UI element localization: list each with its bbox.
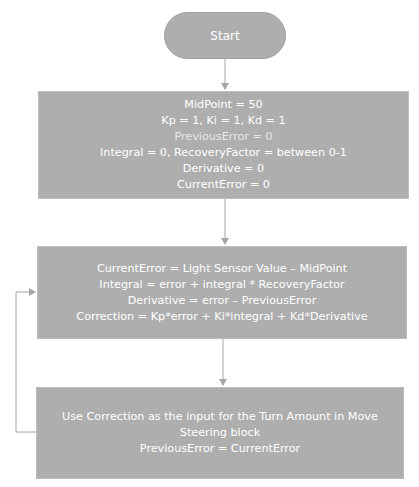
apply-text-block: Use Correction as the input for the Turn… bbox=[55, 409, 385, 457]
compute-line-derivative: Derivative = error – PreviousError bbox=[128, 293, 317, 309]
init-variables-block: MidPoint = 50 Kp = 1, Ki = 1, Kd = 1 Pre… bbox=[38, 91, 409, 199]
compute-line-correction: Correction = Kp*error + Ki*integral + Kd… bbox=[76, 309, 367, 325]
init-line-previous-error: PreviousError = 0 bbox=[174, 129, 272, 145]
init-line-gains: Kp = 1, Ki = 1, Kd = 1 bbox=[161, 113, 285, 129]
apply-line-previous-error: PreviousError = CurrentError bbox=[140, 441, 300, 457]
init-line-current-error: CurrentError = 0 bbox=[177, 177, 270, 193]
init-line-derivative: Derivative = 0 bbox=[183, 161, 264, 177]
flowchart-canvas: Start MidPoint = 50 Kp = 1, Ki = 1, Kd =… bbox=[0, 0, 419, 487]
start-node: Start bbox=[164, 12, 286, 59]
edge-loop-back bbox=[16, 292, 36, 432]
apply-line-use-correction: Use Correction as the input for the Turn… bbox=[55, 409, 385, 441]
init-line-midpoint: MidPoint = 50 bbox=[184, 97, 262, 113]
init-line-integral-recovery: Integral = 0, RecoveryFactor = between 0… bbox=[100, 145, 347, 161]
apply-correction-block: Use Correction as the input for the Turn… bbox=[36, 387, 404, 479]
start-label: Start bbox=[210, 29, 239, 43]
compute-pid-block: CurrentError = Light Sensor Value – MidP… bbox=[37, 246, 407, 339]
compute-line-current-error: CurrentError = Light Sensor Value – MidP… bbox=[97, 261, 347, 277]
compute-line-integral: Integral = error + integral * RecoveryFa… bbox=[99, 277, 344, 293]
